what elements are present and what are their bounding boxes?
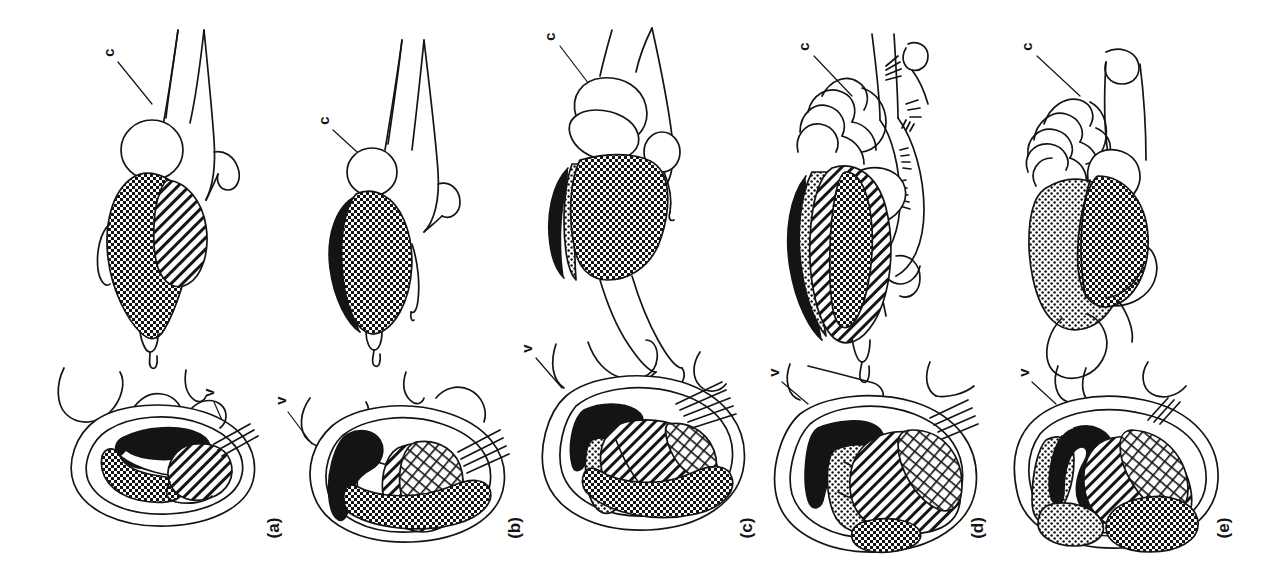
- panel-label-c: (c): [737, 518, 757, 539]
- label-ventricle-e: v: [1015, 368, 1032, 376]
- panel-label-a: (a): [264, 518, 284, 539]
- figure-root: c v (a) c v (b) c v (c) c v (d) c v (e): [0, 0, 1270, 582]
- label-conus-b: c: [315, 116, 332, 124]
- panel-label-d: (d): [968, 517, 988, 539]
- label-ventricle-c: v: [518, 344, 535, 352]
- label-ventricle-b: v: [272, 396, 289, 404]
- label-ventricle-a: v: [200, 388, 217, 396]
- label-conus-e: c: [1018, 42, 1035, 50]
- panel-label-e: (e): [1214, 518, 1234, 539]
- label-conus-d: c: [795, 42, 812, 50]
- anatomy-plate: [0, 0, 1270, 582]
- label-ventricle-d: v: [765, 368, 782, 376]
- label-conus-a: c: [100, 48, 117, 56]
- label-conus-c: c: [541, 32, 558, 40]
- panel-label-b: (b): [505, 517, 525, 539]
